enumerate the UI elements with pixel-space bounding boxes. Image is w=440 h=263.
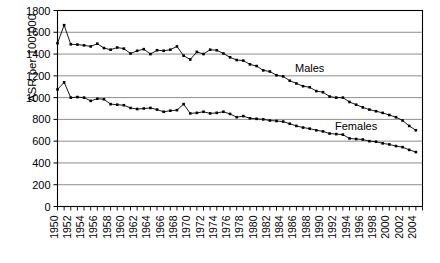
data-point-marker — [136, 108, 139, 111]
x-tick-label: 1952 — [61, 215, 73, 239]
data-point-marker — [103, 98, 106, 101]
data-point-marker — [63, 24, 66, 27]
x-tick-label: 1980 — [247, 215, 259, 239]
line-chart-plot: 0200400600800100012001400160018001950195… — [0, 0, 440, 263]
y-tick-label: 1000 — [26, 92, 50, 104]
data-point-marker — [136, 49, 139, 52]
data-point-marker — [222, 110, 225, 113]
data-point-marker — [116, 46, 119, 49]
data-point-marker — [129, 107, 132, 110]
y-tick-label: 800 — [32, 113, 50, 125]
data-point-marker — [262, 69, 265, 72]
data-point-marker — [361, 138, 364, 141]
data-point-marker — [229, 56, 232, 59]
data-point-marker — [149, 107, 152, 110]
data-point-marker — [335, 133, 338, 136]
data-point-marker — [328, 95, 331, 98]
x-tick-label: 1990 — [313, 215, 325, 239]
data-point-marker — [322, 91, 325, 94]
data-point-marker — [109, 103, 112, 106]
data-point-marker — [408, 149, 411, 152]
data-point-marker — [83, 96, 86, 99]
data-point-marker — [269, 119, 272, 122]
data-point-marker — [169, 109, 172, 112]
series-line — [58, 25, 416, 130]
x-tick-label: 1960 — [114, 215, 126, 239]
data-point-marker — [109, 48, 112, 51]
data-point-marker — [209, 112, 212, 115]
data-point-marker — [96, 42, 99, 45]
x-tick-label: 1972 — [194, 215, 206, 239]
data-point-marker — [209, 48, 212, 51]
data-point-marker — [249, 63, 252, 66]
data-point-marker — [395, 145, 398, 148]
x-tick-label: 2002 — [393, 215, 405, 239]
data-point-marker — [176, 45, 179, 48]
x-tick-label: 1968 — [167, 215, 179, 239]
y-tick-label: 1200 — [26, 70, 50, 82]
data-point-marker — [308, 127, 311, 130]
data-point-marker — [156, 49, 159, 52]
x-tick-label: 1984 — [273, 215, 285, 239]
x-tick-label: 1970 — [180, 215, 192, 239]
data-point-marker — [288, 122, 291, 125]
data-point-marker — [415, 151, 418, 154]
data-point-marker — [395, 116, 398, 119]
data-point-marker — [169, 48, 172, 51]
data-point-marker — [202, 110, 205, 113]
x-tick-label: 1992 — [326, 215, 338, 239]
data-point-marker — [315, 90, 318, 93]
data-point-marker — [69, 96, 72, 99]
data-point-marker — [269, 70, 272, 73]
data-point-marker — [401, 119, 404, 122]
plot-frame — [58, 11, 423, 207]
data-point-marker — [302, 126, 305, 129]
y-tick-label: 400 — [32, 157, 50, 169]
data-point-marker — [89, 100, 92, 103]
x-tick-label: 1976 — [220, 215, 232, 239]
x-tick-label: 1996 — [353, 215, 365, 239]
data-point-marker — [123, 104, 126, 107]
data-point-marker — [415, 129, 418, 132]
x-tick-label: 1964 — [140, 215, 152, 239]
data-point-marker — [368, 140, 371, 143]
data-point-marker — [96, 97, 99, 100]
y-tick-label: 200 — [32, 179, 50, 191]
data-point-marker — [302, 85, 305, 88]
data-point-marker — [262, 118, 265, 121]
data-point-marker — [103, 47, 106, 50]
data-point-marker — [235, 116, 238, 119]
data-point-marker — [375, 110, 378, 113]
series-females — [56, 81, 417, 153]
x-tick-label: 1966 — [154, 215, 166, 239]
data-point-marker — [89, 45, 92, 48]
y-tick-label: 600 — [32, 135, 50, 147]
data-point-marker — [361, 106, 364, 109]
y-tick-label: 1400 — [26, 48, 50, 60]
data-point-marker — [196, 51, 199, 54]
x-tick-label: 2000 — [379, 215, 391, 239]
x-tick-label: 1986 — [286, 215, 298, 239]
data-point-marker — [176, 109, 179, 112]
data-point-marker — [308, 86, 311, 89]
x-tick-label: 1998 — [366, 215, 378, 239]
x-tick-label: 1954 — [74, 215, 86, 239]
data-point-marker — [215, 112, 218, 115]
data-point-marker — [142, 107, 145, 110]
data-point-marker — [69, 43, 72, 46]
data-point-marker — [335, 96, 338, 99]
x-tick-label: 1950 — [48, 215, 60, 239]
data-point-marker — [388, 114, 391, 117]
data-point-marker — [202, 53, 205, 56]
data-point-marker — [142, 48, 145, 51]
data-point-marker — [189, 112, 192, 115]
data-point-marker — [116, 103, 119, 106]
data-point-marker — [255, 118, 258, 121]
y-tick-label: 1600 — [26, 26, 50, 38]
series-males — [56, 24, 417, 132]
data-point-marker — [375, 140, 378, 143]
chart-figure: ASR per 100,000 020040060080010001200140… — [0, 0, 440, 263]
data-point-marker — [56, 42, 59, 45]
data-point-marker — [282, 120, 285, 123]
data-point-marker — [83, 44, 86, 47]
